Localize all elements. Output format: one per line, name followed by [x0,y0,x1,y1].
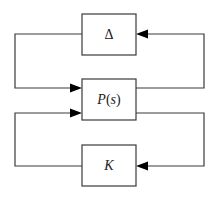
plant-label-close: ) [116,92,121,108]
wire-plant-to-controller [136,113,204,171]
wire-delta-to-plant [15,34,82,93]
controller-block: K [82,145,136,186]
arrow-into-controller [136,162,148,171]
arrow-into-delta [136,30,148,39]
wire-controller-to-plant [15,109,82,167]
arrow-into-plant-upper [70,84,82,93]
plant-label-main: P [96,92,106,107]
wire-plant-to-delta [136,30,204,89]
delta-label: Δ [104,27,113,42]
plant-block: P(s) [82,79,136,120]
plant-label: P(s) [96,92,121,108]
controller-label: K [103,158,114,173]
arrow-into-plant-lower [70,109,82,118]
block-diagram: Δ P(s) K [0,0,216,197]
delta-block: Δ [82,14,136,55]
